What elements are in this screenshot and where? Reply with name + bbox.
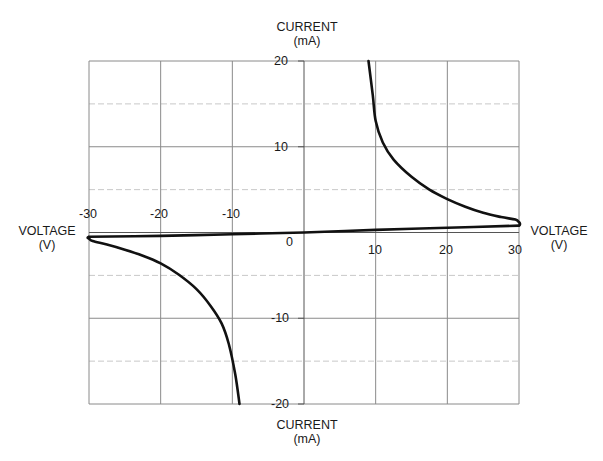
y-tick-neg20: -20	[271, 397, 289, 411]
curve-lower-branch	[89, 239, 240, 405]
x-tick-20: 20	[439, 243, 453, 257]
top-axis-title-current: CURRENT	[272, 20, 342, 34]
curve-tip-negative	[88, 237, 89, 239]
origin-label: 0	[286, 235, 293, 249]
y-tick-10: 10	[274, 140, 288, 154]
bottom-axis-title-current: CURRENT	[272, 418, 342, 432]
right-axis-title-voltage: VOLTAGE	[526, 224, 592, 238]
bottom-axis-title: CURRENT (mA)	[272, 418, 342, 446]
right-axis-title-unit: (V)	[526, 238, 592, 252]
chart-canvas	[0, 0, 603, 461]
y-tick-neg10: -10	[271, 311, 289, 325]
curve-tip-positive	[519, 222, 520, 225]
left-axis-title: VOLTAGE (V)	[14, 224, 80, 252]
x-tick-10: 10	[368, 243, 382, 257]
left-axis-title-voltage: VOLTAGE	[14, 224, 80, 238]
top-axis-title-unit: (mA)	[272, 34, 342, 48]
right-axis-title: VOLTAGE (V)	[526, 224, 592, 252]
x-tick-30: 30	[508, 243, 522, 257]
x-tick-neg20: -20	[150, 207, 168, 221]
top-axis-title: CURRENT (mA)	[272, 20, 342, 48]
bottom-axis-title-unit: (mA)	[272, 432, 342, 446]
y-tick-20: 20	[274, 54, 288, 68]
x-tick-neg10: -10	[222, 207, 240, 221]
left-axis-title-unit: (V)	[14, 238, 80, 252]
x-tick-neg30: -30	[79, 207, 97, 221]
curve-upper-branch	[369, 61, 520, 222]
